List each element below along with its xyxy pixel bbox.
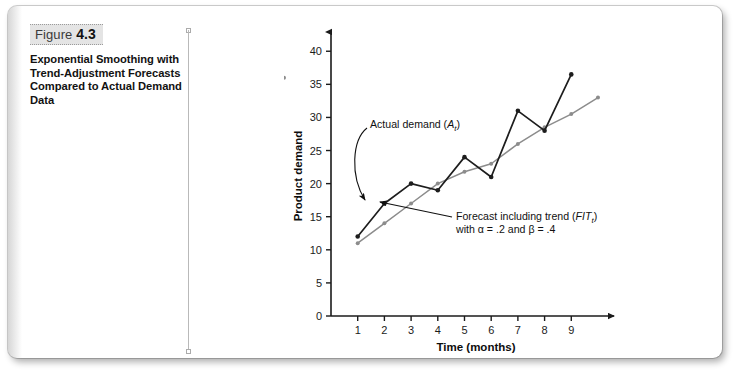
figure-caption-block: Figure 4.3 Exponential Smoothing with Tr…	[30, 24, 185, 107]
x-axis-title: Time (months)	[436, 341, 515, 353]
actual-demand-label: Actual demand (At)	[370, 118, 460, 133]
x-tick-label: 2	[381, 324, 387, 336]
y-tick-label: 40	[310, 45, 322, 57]
data-point-actual	[355, 234, 360, 239]
figure-number-badge: Figure 4.3	[30, 24, 103, 45]
caption-line-3: Compared to Actual Demand	[30, 80, 185, 94]
data-point-forecast	[382, 221, 386, 225]
figure-caption-text: Exponential Smoothing with Trend-Adjustm…	[30, 53, 185, 107]
annotation-actual-demand: Actual demand (At)	[355, 118, 460, 200]
annotation-forecast-trend: Forecast including trend (FITt) with α =…	[380, 202, 597, 235]
x-axis-ticks: 123456789	[355, 316, 575, 336]
x-tick-label: 5	[461, 324, 467, 336]
actual-demand-label-tail: )	[456, 118, 460, 130]
actual-demand-callout-arrow	[355, 128, 367, 200]
x-tick-label: 9	[568, 324, 574, 336]
data-point-actual	[542, 128, 547, 133]
data-point-actual	[569, 72, 574, 77]
forecast-trend-l1-italic: FIT	[576, 210, 593, 222]
x-tick-label: 4	[435, 324, 441, 336]
x-tick-label: 7	[515, 324, 521, 336]
data-point-actual	[409, 181, 414, 186]
caption-line-2: Trend-Adjustment Forecasts	[30, 67, 185, 81]
data-point-forecast	[516, 142, 520, 146]
chart-svg: 0510152025303540 123456789 Product deman…	[284, 16, 624, 361]
data-point-actual	[435, 188, 440, 193]
forecast-trend-callout-arrow	[380, 202, 452, 217]
divider-cap-bottom	[186, 349, 191, 354]
figure-tag-number: 4.3	[76, 26, 96, 42]
forecast-trend-l1-main: Forecast including trend (	[456, 210, 576, 222]
forecast-trend-label-line2: with α = .2 and β = .4	[455, 223, 555, 235]
y-axis-ticks: 0510152025303540	[310, 45, 331, 322]
actual-demand-label-italic: A	[446, 118, 454, 130]
y-tick-label: 0	[316, 310, 322, 322]
y-tick-label: 35	[310, 78, 322, 90]
x-tick-label: 6	[488, 324, 494, 336]
x-tick-label: 1	[355, 324, 361, 336]
y-tick-label: 5	[316, 277, 322, 289]
line-chart: 0510152025303540 123456789 Product deman…	[284, 16, 624, 361]
figure-tag-word: Figure	[35, 27, 72, 42]
forecast-trend-l1-tail: )	[594, 210, 598, 222]
divider-line	[188, 30, 189, 352]
card-edge-shadow	[8, 6, 22, 358]
data-point-forecast	[284, 76, 286, 80]
y-tick-label: 20	[310, 178, 322, 190]
vertical-divider-rule	[186, 28, 191, 354]
data-point-forecast	[436, 182, 440, 186]
data-point-actual	[489, 175, 494, 180]
y-axis-title: Product demand	[292, 131, 304, 222]
x-tick-label: 3	[408, 324, 414, 336]
data-point-forecast	[356, 241, 360, 245]
data-point-forecast	[462, 170, 466, 174]
y-tick-label: 25	[310, 145, 322, 157]
y-tick-label: 15	[310, 211, 322, 223]
figure-card: Figure 4.3 Exponential Smoothing with Tr…	[8, 6, 722, 358]
data-point-forecast	[569, 112, 573, 116]
y-tick-label: 10	[310, 244, 322, 256]
data-point-actual	[516, 109, 521, 114]
caption-line-1: Exponential Smoothing with	[30, 53, 185, 67]
caption-line-4: Data	[30, 94, 185, 108]
data-point-actual	[462, 155, 467, 160]
data-point-forecast	[489, 162, 493, 166]
x-tick-label: 8	[542, 324, 548, 336]
actual-demand-label-main: Actual demand (	[370, 118, 448, 130]
y-tick-label: 30	[310, 111, 322, 123]
data-point-forecast	[409, 201, 413, 205]
data-point-forecast	[596, 96, 600, 100]
